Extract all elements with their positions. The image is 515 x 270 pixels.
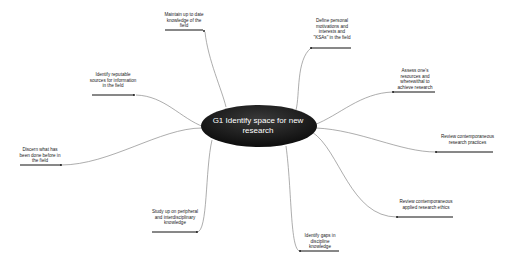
branch-node-b2[interactable]: Define personal motivations and interest… (311, 18, 353, 40)
branch-node-b9[interactable]: Identify gaps in discipline knowledge (299, 233, 341, 250)
connector-b6 (61, 128, 202, 165)
dot-b5 (435, 151, 437, 153)
dot-b1 (203, 30, 205, 32)
dot-b8 (196, 231, 198, 233)
branch-node-b7[interactable]: Review contemporaneous applied research … (398, 199, 454, 210)
connector-b3 (136, 95, 204, 127)
dot-b6 (60, 164, 62, 166)
branch-node-b5[interactable]: Review contemporaneous research practice… (440, 134, 495, 145)
branch-node-b3[interactable]: Identify reputable sources for informati… (88, 72, 138, 89)
dot-b3 (133, 94, 135, 96)
branch-node-b4[interactable]: Assess one's resources and wherewithal t… (392, 68, 438, 90)
connector-b1 (205, 32, 226, 107)
connector-b2 (296, 48, 311, 110)
connector-b9 (286, 146, 300, 251)
dot-b4 (392, 91, 394, 93)
mind-map-canvas (0, 0, 515, 270)
central-topic-label[interactable]: G1 Identify space for new research (200, 116, 316, 135)
connector-b4 (314, 92, 393, 125)
connector-b7 (312, 132, 397, 217)
dot-b2 (310, 47, 312, 49)
dot-b9 (299, 250, 301, 252)
connector-b5 (316, 128, 436, 152)
branch-node-b6[interactable]: Discern what has been done before in the… (17, 147, 63, 164)
branch-node-b8[interactable]: Study up on peripheral and interdiscipli… (150, 209, 200, 226)
dot-b7 (396, 216, 398, 218)
branch-node-b1[interactable]: Maintain up to date knowledge of the fie… (163, 12, 205, 29)
